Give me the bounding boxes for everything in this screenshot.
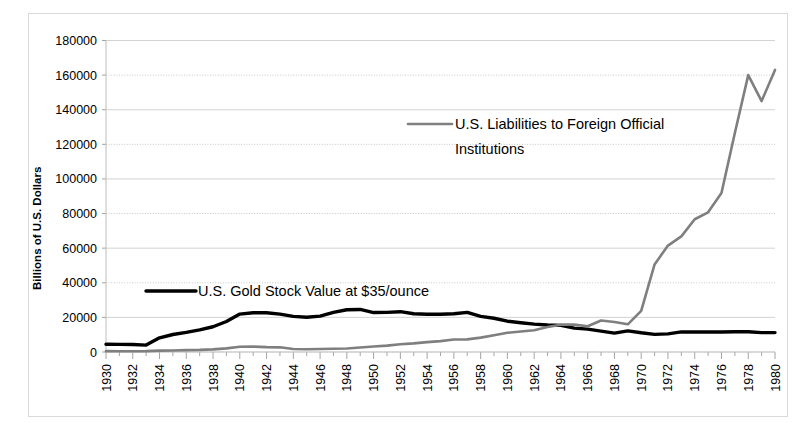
x-tick-label: 1958 bbox=[474, 364, 488, 392]
x-tick-label: 1980 bbox=[769, 364, 783, 392]
x-tick-label: 1952 bbox=[394, 364, 408, 392]
x-tick-label: 1974 bbox=[688, 364, 702, 392]
y-axis-tick-labels: 0200004000060000800001000001200001400001… bbox=[55, 34, 97, 360]
y-axis-gridlines bbox=[102, 41, 775, 353]
x-tick-label: 1976 bbox=[715, 364, 729, 392]
x-tick-label: 1964 bbox=[554, 364, 568, 392]
x-tick-label: 1968 bbox=[608, 364, 622, 392]
x-tick-label: 1932 bbox=[126, 364, 140, 392]
x-tick-label: 1930 bbox=[100, 364, 114, 392]
y-tick-label: 60000 bbox=[62, 242, 97, 256]
y-tick-label: 120000 bbox=[55, 138, 97, 152]
y-axis-title: Billions of U.S. Dollars bbox=[31, 167, 43, 290]
y-tick-label: 100000 bbox=[55, 172, 97, 186]
y-tick-label: 20000 bbox=[62, 311, 97, 325]
legend-label-gold-stock: U.S. Gold Stock Value at $35/ounce bbox=[198, 283, 429, 299]
y-tick-label: 80000 bbox=[62, 207, 97, 221]
series-line-liabilities bbox=[106, 70, 775, 351]
x-tick-label: 1940 bbox=[233, 364, 247, 392]
x-tick-label: 1936 bbox=[180, 364, 194, 392]
legend-liabilities: U.S. Liabilities to Foreign Official Ins… bbox=[408, 116, 664, 157]
y-tick-label: 180000 bbox=[55, 34, 97, 48]
legend-label-liabilities-line2: Institutions bbox=[455, 141, 524, 157]
x-tick-label: 1970 bbox=[635, 364, 649, 392]
y-tick-label: 0 bbox=[90, 346, 97, 360]
x-tick-label: 1946 bbox=[314, 364, 328, 392]
x-tick-label: 1948 bbox=[340, 364, 354, 392]
x-tick-label: 1944 bbox=[287, 364, 301, 392]
series-line-gold-stock bbox=[106, 309, 775, 345]
x-tick-label: 1978 bbox=[742, 364, 756, 392]
x-tick-label: 1938 bbox=[207, 364, 221, 392]
x-tick-label: 1972 bbox=[661, 364, 675, 392]
chart-svg: 0200004000060000800001000001200001400001… bbox=[0, 0, 795, 431]
x-tick-label: 1962 bbox=[528, 364, 542, 392]
legend-label-liabilities-line1: U.S. Liabilities to Foreign Official bbox=[455, 116, 664, 132]
data-series-group bbox=[106, 70, 775, 351]
x-axis-tick-labels: 1930193219341936193819401942194419461948… bbox=[100, 364, 783, 392]
legend-gold-stock: U.S. Gold Stock Value at $35/ounce bbox=[146, 283, 429, 299]
y-tick-label: 40000 bbox=[62, 276, 97, 290]
y-tick-label: 140000 bbox=[55, 103, 97, 117]
x-tick-label: 1942 bbox=[260, 364, 274, 392]
chart-container: 0200004000060000800001000001200001400001… bbox=[0, 0, 795, 431]
x-tick-label: 1950 bbox=[367, 364, 381, 392]
x-tick-label: 1966 bbox=[581, 364, 595, 392]
x-axis-tick-marks bbox=[106, 352, 775, 359]
x-tick-label: 1956 bbox=[447, 364, 461, 392]
x-tick-label: 1954 bbox=[421, 364, 435, 392]
x-tick-label: 1934 bbox=[153, 364, 167, 392]
x-tick-label: 1960 bbox=[501, 364, 515, 392]
y-tick-label: 160000 bbox=[55, 69, 97, 83]
